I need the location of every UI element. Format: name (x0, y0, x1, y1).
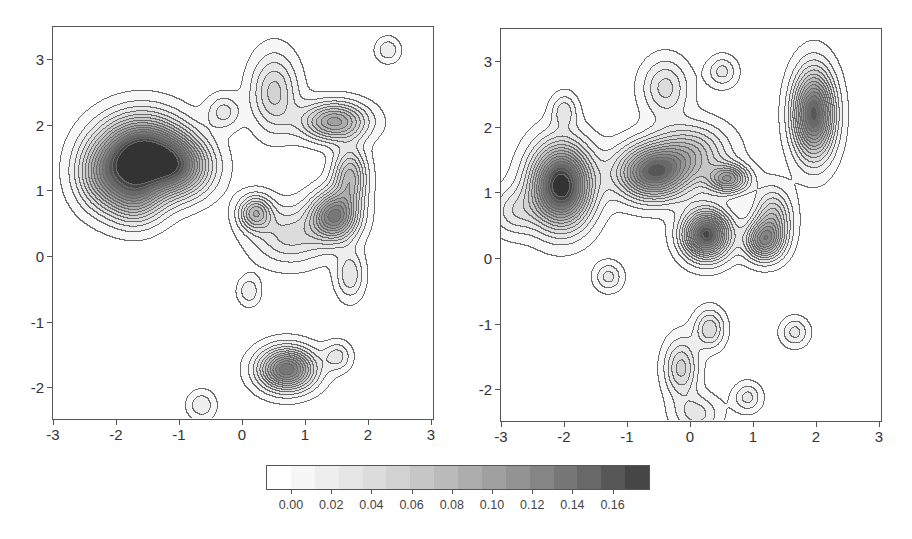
y-tick-mark (495, 61, 500, 62)
colorbar-segment (625, 466, 649, 489)
x-tick-label: 2 (364, 426, 372, 443)
y-tick-mark (47, 59, 52, 60)
y-tick-label: 0 (36, 247, 44, 264)
x-tick-mark (368, 420, 369, 425)
colorbar-segment (458, 466, 482, 489)
x-tick-label: -1 (620, 428, 633, 445)
y-tick-mark (47, 256, 52, 257)
x-tick-label: 1 (749, 428, 757, 445)
x-tick-label: -2 (557, 428, 570, 445)
x-tick-label: -3 (46, 426, 59, 443)
x-tick-label: 2 (812, 428, 820, 445)
colorbar-segment (315, 466, 339, 489)
x-tick-mark (816, 422, 817, 427)
y-tick-mark (495, 192, 500, 193)
colorbar-tick (572, 489, 573, 494)
x-tick-label: 0 (686, 428, 694, 445)
colorbar-tick-label: 0.06 (399, 498, 423, 512)
x-tick-mark (753, 422, 754, 427)
x-tick-label: 3 (875, 428, 883, 445)
y-tick-label: 3 (36, 50, 44, 67)
colorbar-segment (339, 466, 363, 489)
colorbar-segment (482, 466, 506, 489)
contour-canvas (53, 27, 433, 419)
x-tick-mark (431, 420, 432, 425)
y-tick-label: -2 (479, 381, 492, 398)
colorbar-tick (371, 489, 372, 494)
x-tick-label: -1 (172, 426, 185, 443)
y-tick-mark (495, 258, 500, 259)
colorbar-segment (410, 466, 434, 489)
x-tick-mark (242, 420, 243, 425)
y-tick-label: 0 (484, 249, 492, 266)
colorbar-segment (386, 466, 410, 489)
y-tick-label: -2 (31, 379, 44, 396)
y-tick-mark (47, 190, 52, 191)
colorbar-tick-label: 0.10 (480, 498, 504, 512)
x-tick-mark (116, 420, 117, 425)
colorbar-segment (577, 466, 601, 489)
colorbar-tick-label: 0.00 (279, 498, 303, 512)
colorbar-segment (601, 466, 625, 489)
x-tick-label: 1 (301, 426, 309, 443)
colorbar-tick (291, 489, 292, 494)
y-tick-mark (495, 389, 500, 390)
y-tick-label: 1 (36, 182, 44, 199)
colorbar-segment (530, 466, 554, 489)
y-tick-label: 2 (36, 116, 44, 133)
colorbar-segment (291, 466, 315, 489)
colorbar-tick (412, 489, 413, 494)
y-tick-label: 2 (484, 118, 492, 135)
x-tick-mark (564, 422, 565, 427)
y-tick-mark (47, 322, 52, 323)
colorbar-tick-label: 0.14 (560, 498, 584, 512)
right-contour-plot: -3-2-101233210-1-2 (500, 28, 882, 422)
y-tick-label: 1 (484, 184, 492, 201)
x-tick-mark (179, 420, 180, 425)
y-tick-label: 3 (484, 52, 492, 69)
colorbar-segment (506, 466, 530, 489)
colorbar-tick-label: 0.08 (440, 498, 464, 512)
colorbar-tick (532, 489, 533, 494)
colorbar-tick (613, 489, 614, 494)
y-tick-mark (47, 125, 52, 126)
colorbar (266, 465, 650, 490)
y-tick-label: -1 (31, 313, 44, 330)
x-tick-mark (879, 422, 880, 427)
y-tick-mark (495, 127, 500, 128)
x-tick-mark (305, 420, 306, 425)
colorbar-tick-label: 0.16 (600, 498, 624, 512)
colorbar-tick (331, 489, 332, 494)
colorbar-segment (267, 466, 291, 489)
colorbar-segment (363, 466, 387, 489)
x-tick-label: 0 (238, 426, 246, 443)
y-tick-label: -1 (479, 315, 492, 332)
colorbar-tick (452, 489, 453, 494)
colorbar-tick-label: 0.04 (359, 498, 383, 512)
plot-area (52, 26, 434, 420)
x-tick-label: 3 (427, 426, 435, 443)
x-tick-mark (501, 422, 502, 427)
colorbar-tick-label: 0.12 (520, 498, 544, 512)
colorbar-tick-label: 0.02 (319, 498, 343, 512)
contour-canvas (501, 29, 881, 421)
y-tick-mark (47, 387, 52, 388)
left-contour-plot: -3-2-101233210-1-2 (52, 26, 434, 420)
x-tick-label: -2 (109, 426, 122, 443)
colorbar-segment (434, 466, 458, 489)
plot-area (500, 28, 882, 422)
colorbar-segment (554, 466, 578, 489)
x-tick-mark (627, 422, 628, 427)
x-tick-mark (690, 422, 691, 427)
x-tick-mark (53, 420, 54, 425)
colorbar-tick (492, 489, 493, 494)
x-tick-label: -3 (494, 428, 507, 445)
y-tick-mark (495, 324, 500, 325)
